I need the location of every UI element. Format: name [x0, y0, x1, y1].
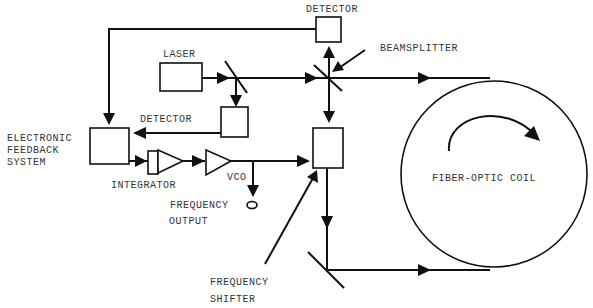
frequency-shifter-box	[313, 128, 343, 168]
arrow-up-icon	[323, 46, 335, 58]
feedback-label-3: SYSTEM	[7, 157, 46, 168]
arrow-down-icon	[103, 113, 115, 125]
integrator-label: INTEGRATOR	[111, 180, 176, 191]
top-detector-label: DETECTOR	[306, 4, 358, 15]
feedback-box	[90, 128, 129, 164]
arrow-down-icon	[321, 216, 333, 229]
arrow-right-icon	[305, 72, 318, 84]
feedback-label-2: FEEDBACK	[7, 145, 59, 156]
shifter-label-1: FREQUENCY	[210, 277, 269, 288]
beamsplitter-pointer	[339, 50, 365, 68]
frequency-output-label-2: OUTPUT	[169, 216, 208, 227]
beamsplitter-label: BEAMSPLITTER	[380, 43, 458, 54]
frequency-output-terminal	[247, 202, 257, 209]
arrow-right-icon	[192, 155, 205, 167]
fiber-optic-gyroscope-diagram: DETECTOR LASER DETECTOR BEAMSPLITTER ELE…	[0, 0, 593, 308]
coil-label: FIBER-OPTIC COIL	[432, 173, 536, 184]
top-feedback-line	[109, 29, 316, 116]
rotation-arrow-arc	[449, 116, 535, 151]
arrow-down-icon	[247, 185, 259, 197]
arrow-left-icon	[133, 127, 146, 139]
shifter-label-2: SHIFTER	[210, 294, 256, 305]
arrow-right-icon	[418, 264, 431, 276]
middle-detector-label: DETECTOR	[140, 114, 192, 125]
arrow-down-icon	[230, 95, 242, 107]
arrow-right-icon	[135, 155, 147, 167]
vco-label: VCO	[227, 172, 247, 183]
shifter-pointer	[265, 178, 313, 264]
arrow-right-icon	[418, 72, 431, 84]
arrow-right-icon	[217, 72, 230, 84]
frequency-output-label-1: FREQUENCY	[170, 200, 229, 211]
integrator-box	[148, 151, 158, 174]
middle-detector-box	[221, 107, 248, 137]
top-detector-box	[316, 17, 341, 42]
integrator-amplifier	[158, 150, 183, 173]
feedback-label-1: ELECTRONIC	[7, 133, 72, 144]
laser-label: LASER	[163, 49, 196, 60]
laser-box	[160, 63, 202, 91]
arrow-pointer-icon	[307, 170, 318, 183]
arrow-right-icon	[297, 155, 310, 167]
arrow-down-icon	[323, 111, 335, 123]
